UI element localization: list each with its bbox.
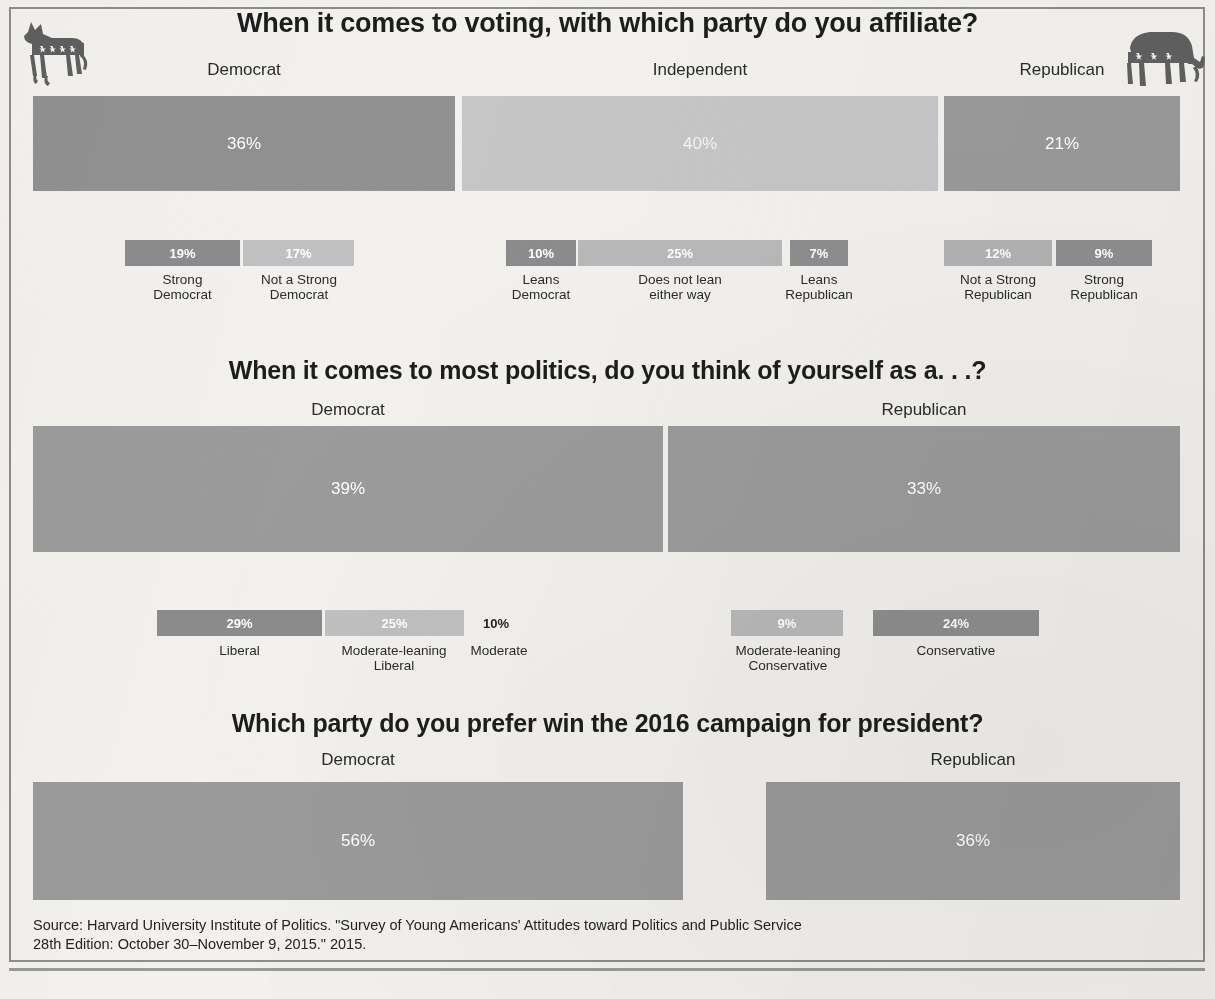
bar-republican-1: 21%: [944, 96, 1180, 191]
republican-elephant-icon: [1118, 22, 1210, 98]
subbar-conservative: 24%: [873, 610, 1039, 636]
subbar-value-moderate-leaning-liberal: 25%: [381, 616, 407, 631]
bar-value-democrat-3: 56%: [341, 831, 375, 851]
subbar-label-moderate-leaning-liberal: Moderate-leaningLiberal: [318, 643, 470, 673]
bar-democrat-2: 39%: [33, 426, 663, 552]
subbar-value-conservative: 24%: [943, 616, 969, 631]
category-label-democrat-1: Democrat: [33, 60, 455, 80]
source-line-1: Source: Harvard University Institute of …: [33, 916, 1033, 935]
bar-republican-3: 36%: [766, 782, 1180, 900]
subbar-not-strong-democrat: 17%: [243, 240, 354, 266]
bar-value-republican-2: 33%: [907, 479, 941, 499]
bar-value-independent-1: 40%: [683, 134, 717, 154]
bar-value-republican-3: 36%: [956, 831, 990, 851]
subbar-label-leans-republican: LeansRepublican: [773, 272, 865, 302]
section-title-2016-preference: Which party do you prefer win the 2016 c…: [0, 709, 1215, 738]
subbar-liberal: 29%: [157, 610, 322, 636]
democratic-donkey-icon: [10, 16, 96, 94]
category-label-independent-1: Independent: [462, 60, 938, 80]
bar-value-democrat-1: 36%: [227, 134, 261, 154]
section-title-political-identity: When it comes to most politics, do you t…: [0, 356, 1215, 385]
subbar-label-moderate-leaning-conservative: Moderate-leaningConservative: [712, 643, 864, 673]
subbar-value-moderate: 10%: [483, 616, 509, 631]
subbar-leans-democrat: 10%: [506, 240, 576, 266]
subbar-value-not-strong-republican: 12%: [985, 246, 1011, 261]
subbar-label-not-strong-republican: Not a StrongRepublican: [936, 272, 1060, 302]
subbar-label-conservative: Conservative: [873, 643, 1039, 658]
category-label-democrat-3: Democrat: [33, 750, 683, 770]
subbar-value-moderate-leaning-conservative: 9%: [778, 616, 797, 631]
infographic-root: When it comes to voting, with which part…: [0, 0, 1215, 999]
subbar-strong-republican: 9%: [1056, 240, 1152, 266]
bar-democrat-3: 56%: [33, 782, 683, 900]
bar-independent-1: 40%: [462, 96, 938, 191]
subbar-label-does-not-lean: Does not leaneither way: [590, 272, 770, 302]
subbar-value-does-not-lean: 25%: [667, 246, 693, 261]
subbar-label-strong-republican: StrongRepublican: [1056, 272, 1152, 302]
bar-democrat-1: 36%: [33, 96, 455, 191]
subbar-not-strong-republican: 12%: [944, 240, 1052, 266]
source-line-2: 28th Edition: October 30–November 9, 201…: [33, 935, 1033, 954]
subbar-value-strong-democrat: 19%: [169, 246, 195, 261]
subbar-label-leans-democrat: LeansDemocrat: [500, 272, 582, 302]
subbar-does-not-lean: 25%: [578, 240, 782, 266]
subbar-label-not-strong-democrat: Not a StrongDemocrat: [236, 272, 362, 302]
subbar-label-strong-democrat: StrongDemocrat: [125, 272, 240, 302]
category-label-republican-3: Republican: [766, 750, 1180, 770]
subbar-leans-republican: 7%: [790, 240, 848, 266]
bar-value-republican-1: 21%: [1045, 134, 1079, 154]
source-note: Source: Harvard University Institute of …: [33, 916, 1033, 954]
subbar-moderate: 10%: [466, 610, 526, 636]
subbar-value-not-strong-democrat: 17%: [285, 246, 311, 261]
subbar-value-leans-republican: 7%: [810, 246, 829, 261]
subbar-value-liberal: 29%: [226, 616, 252, 631]
subbar-value-strong-republican: 9%: [1095, 246, 1114, 261]
subbar-value-leans-democrat: 10%: [528, 246, 554, 261]
bottom-rule: [9, 968, 1205, 971]
subbar-label-moderate: Moderate: [466, 643, 532, 658]
subbar-label-liberal: Liberal: [157, 643, 322, 658]
subbar-moderate-leaning-liberal: 25%: [325, 610, 464, 636]
bar-value-democrat-2: 39%: [331, 479, 365, 499]
category-label-republican-2: Republican: [668, 400, 1180, 420]
subbar-moderate-leaning-conservative: 9%: [731, 610, 843, 636]
bar-republican-2: 33%: [668, 426, 1180, 552]
category-label-democrat-2: Democrat: [33, 400, 663, 420]
section-title-party-affiliation: When it comes to voting, with which part…: [0, 8, 1215, 39]
subbar-strong-democrat: 19%: [125, 240, 240, 266]
